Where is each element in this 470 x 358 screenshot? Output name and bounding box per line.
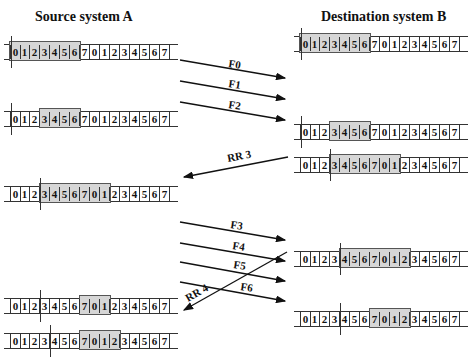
svg-text:RR 4: RR 4 xyxy=(183,281,210,304)
arrow-f4: F4 xyxy=(180,239,285,261)
svg-text:F4: F4 xyxy=(232,239,246,253)
svg-text:F0: F0 xyxy=(228,57,242,71)
arrow-f2: F2 xyxy=(180,98,285,120)
svg-text:F3: F3 xyxy=(230,218,244,232)
svg-text:F2: F2 xyxy=(228,98,242,112)
arrow-f0: F0 xyxy=(180,57,285,78)
svg-text:F1: F1 xyxy=(228,77,242,91)
arrow-f3: F3 xyxy=(180,218,285,240)
svg-text:F5: F5 xyxy=(233,258,247,272)
arrow-f1: F1 xyxy=(180,77,285,99)
arrow-rr3: RR 3 xyxy=(184,147,288,177)
svg-text:F6: F6 xyxy=(240,280,254,294)
svg-text:RR 3: RR 3 xyxy=(226,147,252,163)
message-arrows: F0 F1 F2 RR 3 F3 F4 F5 F6 RR 4 xyxy=(0,0,470,358)
